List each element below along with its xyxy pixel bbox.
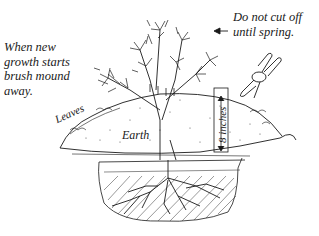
root-system (99, 158, 245, 221)
winter-mulch-diagram: When new growth starts brush mound away.… (0, 0, 319, 236)
arrow-left-icon (214, 28, 228, 34)
shrub-illustration (94, 20, 218, 160)
label-depth: 8 inches (216, 107, 228, 143)
note-do-not-cut: Do not cut off until spring. (233, 10, 302, 39)
ground-line (60, 134, 296, 156)
mound (60, 94, 282, 148)
note-brush-mound-away: When new growth starts brush mound away. (4, 40, 70, 98)
pruning-shears-icon (240, 53, 281, 98)
label-earth: Earth (122, 128, 149, 143)
